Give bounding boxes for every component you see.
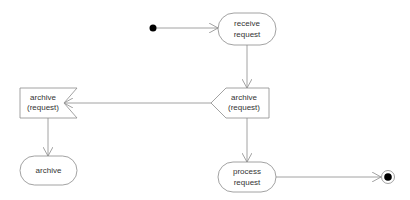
action-label-line2: request [234,30,261,39]
signal-label-line2: (request) [228,103,260,112]
action-label-line1: process [233,167,261,176]
initial-node[interactable] [150,25,157,32]
event-label-line1: archive [30,93,56,102]
action-archive[interactable]: archive [20,156,77,185]
signal-label-line1: archive [231,93,257,102]
final-node[interactable] [382,171,395,184]
action-label-line1: receive [234,19,260,28]
action-process-request[interactable]: process request [218,162,276,192]
action-label: archive [36,166,62,175]
send-signal-archive-request[interactable]: archive (request) [211,88,269,118]
event-label-line2: (request) [27,103,59,112]
action-label-line2: request [234,178,261,187]
activity-diagram: receive request archive (request) archiv… [0,0,410,200]
action-receive-request[interactable]: receive request [218,13,276,45]
